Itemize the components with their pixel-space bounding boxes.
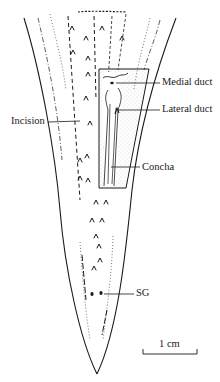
anatomical-diagram: Incision Medial duct Lateral duct Concha… [0,0,220,382]
label-medial-duct: Medial duct [162,77,212,88]
label-sg: SG [136,288,149,299]
scale-bar-label: 1 cm [159,339,180,350]
label-incision: Incision [11,116,45,127]
label-concha: Concha [142,162,174,173]
sg-dots [90,291,102,296]
scale-bar [143,349,197,354]
label-lateral-duct: Lateral duct [162,104,212,115]
specimen-drawing [0,0,220,382]
lower-lines [80,236,113,340]
